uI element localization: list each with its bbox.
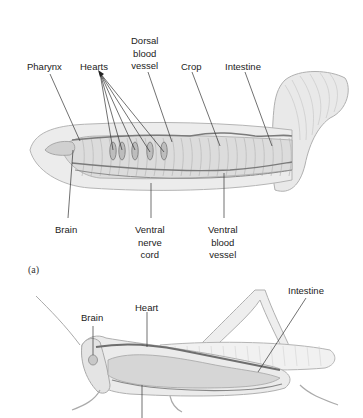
label-vbv-line-1: Ventral bbox=[208, 224, 238, 237]
heart-arch bbox=[147, 142, 153, 160]
label-vnc-line-3: cord bbox=[135, 249, 165, 262]
grasshopper-brain bbox=[89, 355, 98, 365]
label-dorsal-line-1: Dorsal bbox=[131, 35, 158, 48]
label-ventral-nerve-cord: Ventral nerve cord bbox=[135, 224, 165, 262]
label-vbv-line-3: vessel bbox=[208, 249, 238, 262]
label-pharynx: Pharynx bbox=[27, 61, 62, 74]
grasshopper-illustration bbox=[36, 290, 338, 412]
grasshopper-mid-leg bbox=[170, 396, 182, 412]
label-vnc-line-2: nerve bbox=[135, 237, 165, 250]
label-vnc-line-1: Ventral bbox=[135, 224, 165, 237]
label-intestine-b: Intestine bbox=[288, 285, 324, 298]
heart-arch bbox=[161, 142, 167, 160]
heart-arch bbox=[119, 142, 125, 160]
panel-label-a: (a) bbox=[28, 264, 39, 275]
label-brain-b: Brain bbox=[81, 312, 103, 325]
label-crop: Crop bbox=[181, 61, 202, 74]
label-dorsal-line-2: blood bbox=[131, 48, 158, 61]
earthworm-inner-cavity bbox=[62, 135, 292, 179]
label-vbv-line-2: blood bbox=[208, 237, 238, 250]
grasshopper-antenna bbox=[36, 296, 80, 345]
heart-arch bbox=[110, 142, 116, 160]
label-intestine: Intestine bbox=[225, 61, 261, 74]
label-heart: Heart bbox=[135, 302, 158, 315]
label-ventral-blood-vessel: Ventral blood vessel bbox=[208, 224, 238, 262]
label-dorsal-blood-vessel: Dorsal blood vessel bbox=[131, 35, 158, 73]
grasshopper-front-leg bbox=[72, 390, 100, 410]
grasshopper-rear-foot bbox=[300, 385, 338, 405]
label-hearts: Hearts bbox=[80, 61, 108, 74]
earthworm-illustration bbox=[30, 72, 348, 192]
label-brain-a: Brain bbox=[55, 224, 77, 237]
label-dorsal-line-3: vessel bbox=[131, 60, 158, 73]
